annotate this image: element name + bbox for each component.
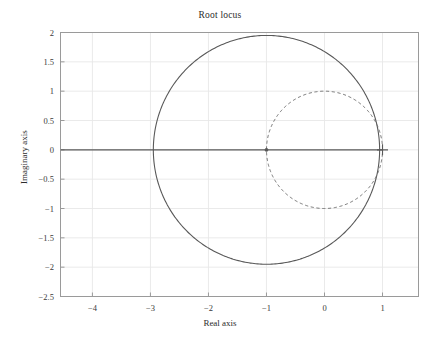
y-tick-label: 1 xyxy=(20,86,54,96)
x-tick-label: −4 xyxy=(88,303,97,313)
y-tick-label: 0 xyxy=(20,145,54,155)
root-locus-figure: Root locus Imaginary axis Real axis −4−3… xyxy=(0,0,440,339)
x-tick-label: −2 xyxy=(204,303,213,313)
y-tick-label: −2.5 xyxy=(20,292,54,302)
y-tick-label: 0.5 xyxy=(20,116,54,126)
breakaway-marker xyxy=(265,148,269,152)
y-tick-label: −1 xyxy=(20,204,54,214)
y-tick-label: 2 xyxy=(20,28,54,38)
y-tick-label: −0.5 xyxy=(20,174,54,184)
x-tick-label: −1 xyxy=(262,303,271,313)
y-tick-label: −2 xyxy=(20,262,54,272)
x-tick-label: 1 xyxy=(380,303,384,313)
x-tick-label: 0 xyxy=(322,303,326,313)
y-tick-label: 1.5 xyxy=(20,57,54,67)
plot-background xyxy=(61,33,419,297)
plot-svg xyxy=(0,0,440,339)
y-tick-label: −1.5 xyxy=(20,233,54,243)
x-tick-label: −3 xyxy=(146,303,155,313)
plot-canvas xyxy=(0,0,440,339)
